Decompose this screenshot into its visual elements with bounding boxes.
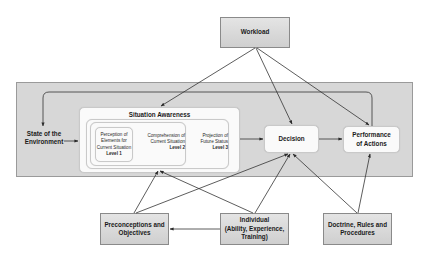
level2-text: Comprehension of Current Situation Level…: [139, 133, 185, 152]
doctrine-node: Doctrine, Rules and Procedures: [323, 213, 392, 245]
individual-line3: Training): [241, 233, 268, 242]
sa-level1-box: Perception of Elements for Current Situa…: [95, 127, 133, 162]
level1-label: Level 1: [97, 151, 131, 157]
preconceptions-line2: Objectives: [119, 229, 151, 238]
decision-label: Decision: [278, 135, 304, 144]
level2-label: Level 2: [139, 145, 185, 151]
state-of-environment-node: State of the Environment: [17, 127, 71, 149]
state-line1: State of the: [27, 130, 61, 139]
preconceptions-line1: Preconceptions and: [104, 221, 164, 230]
doctrine-line1: Doctrine, Rules and: [328, 221, 387, 230]
arrow-individual-to-sa: [160, 171, 253, 213]
level1-text: Perception of Elements for Current Situa…: [97, 132, 131, 157]
doctrine-line2: Procedures: [340, 229, 375, 238]
level3-label: Level 3: [184, 145, 228, 151]
performance-line1: Performance: [352, 131, 391, 140]
decision-node: Decision: [264, 125, 319, 153]
performance-line2: of Actions: [356, 140, 387, 149]
workload-label: Workload: [241, 28, 270, 37]
individual-line2: (Ability, Experience,: [225, 225, 285, 234]
individual-line1: Individual: [240, 216, 269, 225]
preconceptions-node: Preconceptions and Objectives: [100, 213, 169, 245]
state-line2: Environment: [25, 138, 64, 147]
arrow-preconceptions-to-sa: [134, 171, 158, 213]
level3-text: Projection of Future Status Level 3: [184, 133, 228, 152]
workload-node: Workload: [220, 17, 290, 48]
situation-awareness-title: Situation Awareness: [80, 111, 239, 118]
individual-node: Individual (Ability, Experience, Trainin…: [220, 213, 289, 245]
performance-node: Performance of Actions: [343, 126, 400, 153]
